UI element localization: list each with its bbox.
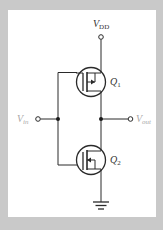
q2-transistor-icon <box>77 146 106 176</box>
vdd-terminal <box>99 35 104 40</box>
input-junction-dot <box>56 117 60 121</box>
vout-terminal <box>128 117 133 122</box>
q2-label: Q2 <box>110 155 121 168</box>
vin-terminal <box>36 117 41 122</box>
vout-label: Vout <box>136 114 151 127</box>
vin-label: Vin <box>17 114 29 127</box>
output-junction-dot <box>99 117 103 121</box>
q1-label: Q1 <box>110 77 121 90</box>
ground-icon <box>93 202 109 209</box>
q1-transistor-icon <box>77 68 106 98</box>
vdd-label: VDD <box>93 19 109 32</box>
